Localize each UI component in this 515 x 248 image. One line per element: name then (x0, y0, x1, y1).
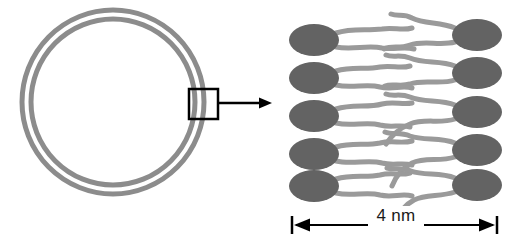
scale-bar-right-arrowhead (479, 219, 495, 232)
scale-bar-left-arrowhead (294, 219, 310, 232)
lipid-bilayer-figure: 4 nm (0, 0, 515, 248)
scale-bar-layer (0, 0, 515, 248)
scale-bar-label: 4 nm (368, 206, 424, 226)
